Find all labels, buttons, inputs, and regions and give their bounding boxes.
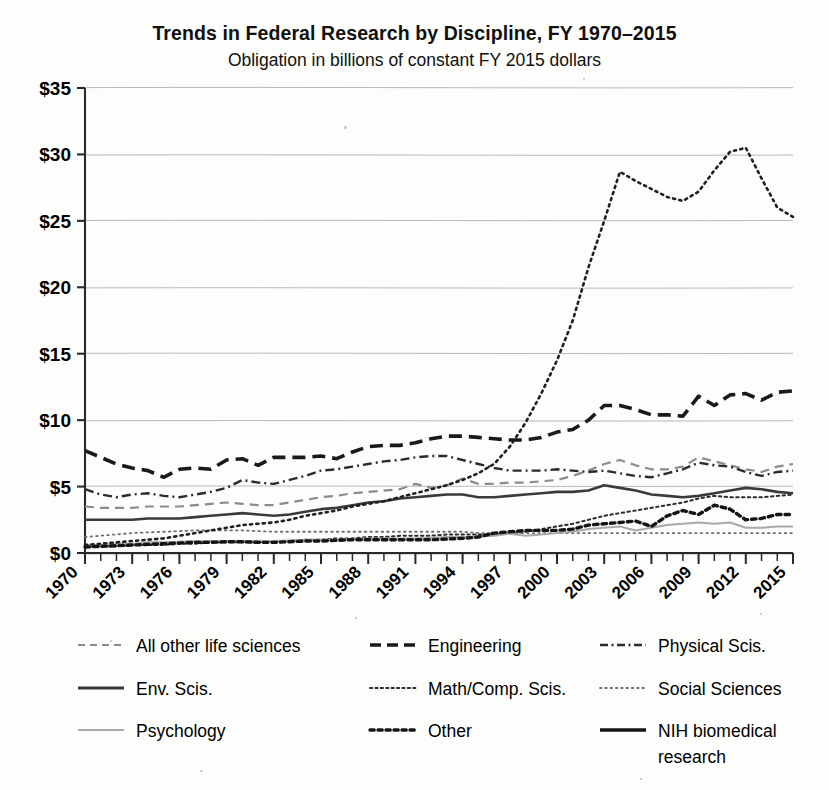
legend-label-engineering: Engineering bbox=[428, 636, 521, 656]
series-line-all-other-life-sciences bbox=[85, 457, 793, 507]
chart-plot-area: $0$5$10$15$20$25$30$35197019731976197919… bbox=[0, 0, 829, 790]
scan-speck bbox=[640, 778, 642, 780]
x-tick-label: 1979 bbox=[183, 562, 223, 602]
x-tick-label: 1994 bbox=[419, 562, 460, 603]
x-tick-label-group: 1994 bbox=[419, 562, 460, 603]
x-tick-label: 2015 bbox=[750, 562, 790, 602]
legend-label-nih-biomedical-research: NIH biomedical bbox=[658, 721, 777, 741]
x-tick-label-group: 2015 bbox=[750, 562, 790, 602]
y-tick-label: $30 bbox=[39, 144, 71, 165]
x-tick-label-group: 1982 bbox=[230, 562, 270, 602]
y-tick-label: $35 bbox=[39, 78, 71, 99]
y-tick-label: $5 bbox=[50, 477, 72, 498]
x-tick-label: 2009 bbox=[655, 562, 695, 602]
x-tick-label-group: 1988 bbox=[325, 562, 365, 602]
x-tick-label-group: 1997 bbox=[466, 562, 506, 602]
scan-speck bbox=[583, 78, 585, 80]
x-tick-label: 2003 bbox=[561, 562, 601, 602]
y-tick-label: $0 bbox=[50, 543, 71, 564]
y-tick-label: $20 bbox=[39, 277, 71, 298]
x-tick-label: 1991 bbox=[372, 562, 412, 602]
y-tick-label: $25 bbox=[39, 211, 71, 232]
x-tick-label-group: 1970 bbox=[42, 562, 82, 602]
x-tick-label: 1997 bbox=[466, 562, 506, 602]
x-tick-label: 1973 bbox=[89, 562, 129, 602]
scan-speck bbox=[760, 613, 762, 615]
scan-speck bbox=[200, 770, 203, 772]
x-tick-label-group: 2009 bbox=[655, 562, 695, 602]
scan-speck bbox=[344, 126, 347, 129]
legend-label-env-scis: Env. Scis. bbox=[136, 679, 213, 699]
x-tick-label-group: 2000 bbox=[514, 562, 554, 602]
x-tick-label-group: 1979 bbox=[183, 562, 223, 602]
series-line-physical-scis bbox=[85, 456, 793, 497]
x-tick-label: 2000 bbox=[514, 562, 554, 602]
x-tick-label-group: 1985 bbox=[278, 562, 318, 602]
x-tick-label-group: 2006 bbox=[608, 562, 648, 602]
series-line-nih-biomedical-research bbox=[85, 148, 793, 545]
legend-label-psychology: Psychology bbox=[136, 721, 226, 741]
x-tick-label-group: 1973 bbox=[89, 562, 129, 602]
series-line-engineering bbox=[85, 391, 793, 477]
y-tick-label: $15 bbox=[39, 344, 71, 365]
x-tick-label-group: 2003 bbox=[561, 562, 601, 602]
x-tick-label: 1970 bbox=[42, 562, 82, 602]
x-tick-label: 2012 bbox=[702, 562, 742, 602]
scan-speck bbox=[110, 640, 112, 642]
x-tick-label: 1988 bbox=[325, 562, 365, 602]
legend-label-physical-scis: Physical Scis. bbox=[658, 636, 766, 656]
x-tick-label: 1976 bbox=[136, 562, 176, 602]
legend-label-math-comp-scis: Math/Comp. Scis. bbox=[428, 679, 566, 699]
x-tick-label: 1982 bbox=[230, 562, 270, 602]
legend-label-nih-biomedical-research-line2: research bbox=[658, 747, 726, 767]
legend-label-other: Other bbox=[428, 721, 472, 741]
legend-label-all-other-life-sciences: All other life sciences bbox=[136, 636, 301, 656]
chart-figure: Trends in Federal Research by Discipline… bbox=[0, 0, 829, 790]
x-tick-label: 2006 bbox=[608, 562, 648, 602]
y-tick-label: $10 bbox=[39, 410, 71, 431]
legend-label-social-sciences: Social Sciences bbox=[658, 679, 782, 699]
x-tick-label-group: 1991 bbox=[372, 562, 412, 602]
x-tick-label-group: 2012 bbox=[702, 562, 742, 602]
x-tick-label: 1985 bbox=[278, 562, 318, 602]
scan-speck bbox=[355, 617, 357, 619]
x-tick-label-group: 1976 bbox=[136, 562, 176, 602]
